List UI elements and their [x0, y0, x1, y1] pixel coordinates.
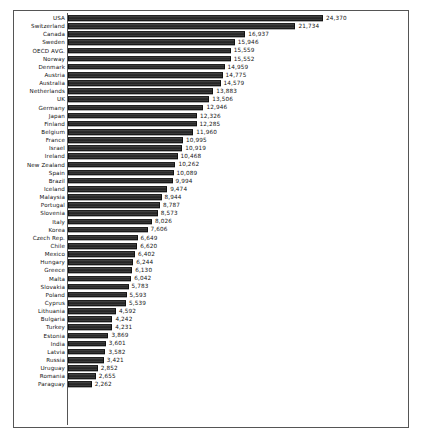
bar-value-label: 4,242: [115, 316, 132, 322]
bar-with-value: 12,326: [68, 113, 221, 119]
bar-row: Sweden15,946: [14, 38, 408, 46]
bar-with-value: 13,883: [68, 89, 237, 95]
category-label: OECD AVG.: [14, 48, 65, 54]
bar-with-value: 11,960: [68, 129, 217, 135]
bar: [68, 137, 183, 143]
bar-with-value: 14,959: [68, 64, 248, 70]
bar-row: Slovakia5,783: [14, 283, 408, 291]
bar-value-label: 15,552: [234, 56, 255, 62]
category-label: Malta: [14, 276, 65, 282]
bar-value-label: 6,649: [141, 235, 158, 241]
bar: [68, 284, 129, 290]
bar-value-label: 12,326: [200, 113, 221, 119]
bar-row: Russia3,421: [14, 356, 408, 364]
bar: [68, 300, 126, 306]
bar-row: India3,601: [14, 340, 408, 348]
bar-value-label: 7,606: [151, 227, 168, 233]
category-label: Uruguay: [14, 365, 65, 371]
bar-value-label: 15,559: [234, 48, 255, 54]
bar-row: Ireland10,468: [14, 152, 408, 160]
category-label: Canada: [14, 31, 65, 37]
bar: [68, 129, 193, 135]
bar: [68, 56, 231, 62]
bar-row: New Zealand10,262: [14, 161, 408, 169]
bar: [68, 382, 92, 388]
bar-value-label: 6,620: [140, 243, 157, 249]
bar-row: Belgium11,960: [14, 128, 408, 136]
bar-value-label: 6,130: [135, 267, 152, 273]
bar: [68, 373, 96, 379]
bar-row: Bulgaria4,242: [14, 315, 408, 323]
bar: [68, 235, 138, 241]
category-label: Italy: [14, 219, 65, 225]
bar: [68, 162, 175, 168]
bar-value-label: 8,787: [163, 202, 180, 208]
bar-value-label: 9,994: [176, 178, 193, 184]
bar: [68, 105, 203, 111]
bar-with-value: 15,946: [68, 40, 259, 46]
bar-value-label: 4,592: [119, 308, 136, 314]
bar-row: Australia14,579: [14, 79, 408, 87]
category-label: Hungary: [14, 259, 65, 265]
category-label: Romania: [14, 373, 65, 379]
bar: [68, 202, 160, 208]
bar-with-value: 10,089: [68, 170, 197, 176]
category-label: UK: [14, 96, 65, 102]
bar-value-label: 15,946: [238, 39, 259, 45]
bar-row: Latvia3,582: [14, 348, 408, 356]
bar-row: Denmark14,959: [14, 63, 408, 71]
bar-row: Finland12,285: [14, 120, 408, 128]
bar-value-label: 6,402: [138, 251, 155, 257]
bar-row: Netherlands13,883: [14, 87, 408, 95]
bar-with-value: 12,946: [68, 105, 227, 111]
bar-with-value: 4,242: [68, 316, 132, 322]
plot-frame: USA24,370Switzerland21,734Canada16,937Sw…: [13, 10, 409, 428]
bar-with-value: 10,919: [68, 145, 206, 151]
bar-with-value: 4,231: [68, 325, 132, 331]
bar: [68, 292, 127, 298]
category-label: Malaysia: [14, 194, 65, 200]
category-label: Slovenia: [14, 210, 65, 216]
bar-with-value: 5,539: [68, 300, 146, 306]
category-label: Latvia: [14, 349, 65, 355]
bar-rows-container: USA24,370Switzerland21,734Canada16,937Sw…: [14, 11, 408, 427]
bar-row: Estonia3,869: [14, 331, 408, 339]
bar: [68, 113, 197, 119]
bar-with-value: 8,787: [68, 202, 180, 208]
category-label: Finland: [14, 121, 65, 127]
bar-value-label: 2,262: [95, 381, 112, 387]
bar-row: Poland5,593: [14, 291, 408, 299]
category-label: Chile: [14, 243, 65, 249]
bar-value-label: 10,919: [185, 145, 206, 151]
bar-row: Brazil9,994: [14, 177, 408, 185]
bar-value-label: 5,783: [132, 284, 149, 290]
category-label: Mexico: [14, 251, 65, 257]
bar-value-label: 3,869: [111, 333, 128, 339]
bar-value-label: 8,944: [165, 194, 182, 200]
bar-with-value: 10,468: [68, 154, 201, 160]
bar-value-label: 14,579: [224, 80, 245, 86]
bar-value-label: 21,734: [298, 23, 319, 29]
bar-value-label: 6,244: [136, 259, 153, 265]
bar-with-value: 24,370: [68, 15, 347, 21]
bar-row: Slovenia8,573: [14, 209, 408, 217]
bar-row: Portugal8,787: [14, 201, 408, 209]
bar-row: Korea7,606: [14, 226, 408, 234]
bar-with-value: 2,852: [68, 365, 118, 371]
category-label: Belgium: [14, 129, 65, 135]
bar: [68, 72, 223, 78]
bar-value-label: 5,539: [129, 300, 146, 306]
bar-value-label: 6,042: [134, 276, 151, 282]
bar-with-value: 8,573: [68, 211, 178, 217]
category-label: New Zealand: [14, 162, 65, 168]
bar: [68, 97, 209, 103]
bar-with-value: 12,285: [68, 121, 220, 127]
bar: [68, 40, 235, 46]
bar-row: Hungary6,244: [14, 258, 408, 266]
bar: [68, 211, 158, 217]
bar-with-value: 6,042: [68, 276, 151, 282]
category-label: Switzerland: [14, 23, 65, 29]
bar: [68, 268, 132, 274]
category-label: India: [14, 341, 65, 347]
category-label: Estonia: [14, 333, 65, 339]
